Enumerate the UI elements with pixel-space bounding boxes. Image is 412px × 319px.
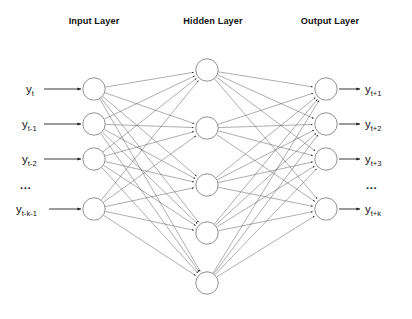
edge xyxy=(216,77,315,151)
ellipsis-input: ... xyxy=(20,179,31,191)
input-arrows xyxy=(44,89,81,209)
edge xyxy=(102,168,198,274)
output-variable-label: yt+1 xyxy=(365,83,382,98)
edge xyxy=(217,135,315,202)
layer-title-hidden: Hidden Layer xyxy=(183,16,243,26)
input-variable-label: yt-1 xyxy=(22,118,37,133)
layer-title-input: Input Layer xyxy=(69,16,120,26)
output-arrows xyxy=(339,89,360,209)
edge xyxy=(213,100,319,273)
edge xyxy=(216,97,316,177)
output-variable-label: yt+k xyxy=(365,203,381,218)
input-variable-label: yt-2 xyxy=(22,153,37,168)
input-node xyxy=(83,148,105,170)
hidden-node xyxy=(196,59,218,81)
edge xyxy=(101,98,199,222)
edge xyxy=(105,211,194,230)
input-node xyxy=(83,198,105,220)
layer-titles: Input LayerHidden LayerOutput Layer xyxy=(69,16,360,26)
output-variable-labels: yt+1yt+2yt+3yt+k xyxy=(365,83,382,218)
output-layer-nodes xyxy=(315,78,337,220)
edge xyxy=(217,166,315,227)
output-node xyxy=(315,198,337,220)
network-canvas: Input LayerHidden LayerOutput Layer ytyt… xyxy=(0,0,412,319)
output-node xyxy=(315,113,337,135)
edge xyxy=(217,216,315,277)
hidden-layer-nodes xyxy=(196,59,218,294)
edge xyxy=(216,133,317,225)
ellipsis-output: ... xyxy=(366,179,377,191)
edge xyxy=(103,78,196,152)
edge xyxy=(218,131,313,156)
edge xyxy=(104,215,196,275)
hidden-node xyxy=(196,174,218,196)
edge xyxy=(218,212,312,231)
output-variable-label: yt+2 xyxy=(365,118,382,133)
hidden-node xyxy=(196,222,218,244)
edge xyxy=(215,169,317,275)
output-variable-label: yt+3 xyxy=(365,153,382,168)
input-variable-label: yt xyxy=(26,83,35,98)
edge xyxy=(218,72,312,87)
input-to-hidden-edges xyxy=(100,72,200,275)
edge xyxy=(103,136,196,202)
edge xyxy=(219,124,313,127)
hidden-node xyxy=(196,117,218,139)
edge xyxy=(214,99,317,224)
edge xyxy=(218,75,314,119)
neural-network-diagram: Input LayerHidden LayerOutput Layer ytyt… xyxy=(0,0,412,319)
edge xyxy=(105,188,194,207)
input-node xyxy=(83,78,105,100)
output-node xyxy=(315,78,337,100)
input-variable-labels: ytyt-1yt-2yt-k-1 xyxy=(16,83,37,218)
hidden-to-output-edges xyxy=(213,72,319,277)
input-node xyxy=(83,113,105,135)
edge xyxy=(101,80,198,200)
edge xyxy=(102,132,197,224)
hidden-node xyxy=(196,272,218,294)
edge xyxy=(106,124,194,127)
edge xyxy=(218,93,313,124)
output-node xyxy=(315,148,337,170)
edge xyxy=(104,165,196,225)
edge xyxy=(105,72,193,87)
input-variable-label: yt-k-1 xyxy=(16,203,37,218)
edge xyxy=(104,130,195,179)
layer-title-output: Output Layer xyxy=(301,16,360,26)
edge xyxy=(105,132,194,156)
